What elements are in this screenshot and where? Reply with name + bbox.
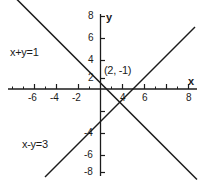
x-tick-label-minus-2: -2 — [72, 93, 81, 103]
y-tick-label-minus-6: -6 — [84, 150, 93, 160]
equation-label-x-minus-y: x-y=3 — [22, 139, 48, 150]
x-tick-label-minus-4: -4 — [50, 93, 59, 103]
y-tick-label-2: 2 — [88, 73, 93, 83]
y-axis-label: y — [106, 12, 112, 23]
intersection-point-label: (2, -1) — [104, 65, 131, 76]
graph-figure: 8 6 4 2 -4 -6 -8 -6 -4 -2 4 6 8 y x x+y=… — [0, 0, 202, 181]
x-tick-label-8: 8 — [186, 93, 191, 103]
x-tick-label-minus-6: -6 — [28, 93, 37, 103]
y-tick-label-4: 4 — [88, 55, 93, 65]
y-tick-label-minus-4: -4 — [84, 128, 93, 138]
y-tick-label-6: 6 — [88, 33, 93, 43]
y-axis-ticks — [101, 17, 106, 173]
x-tick-label-6: 6 — [142, 93, 147, 103]
x-tick-label-4: 4 — [120, 93, 125, 103]
y-tick-label-minus-8: -8 — [84, 167, 93, 177]
y-tick-label-8: 8 — [88, 11, 93, 21]
equation-label-x-plus-y: x+y=1 — [10, 47, 38, 58]
series-line-1 — [8, 0, 197, 180]
coordinate-plane-svg — [0, 0, 202, 181]
x-axis-label: x — [188, 76, 194, 87]
